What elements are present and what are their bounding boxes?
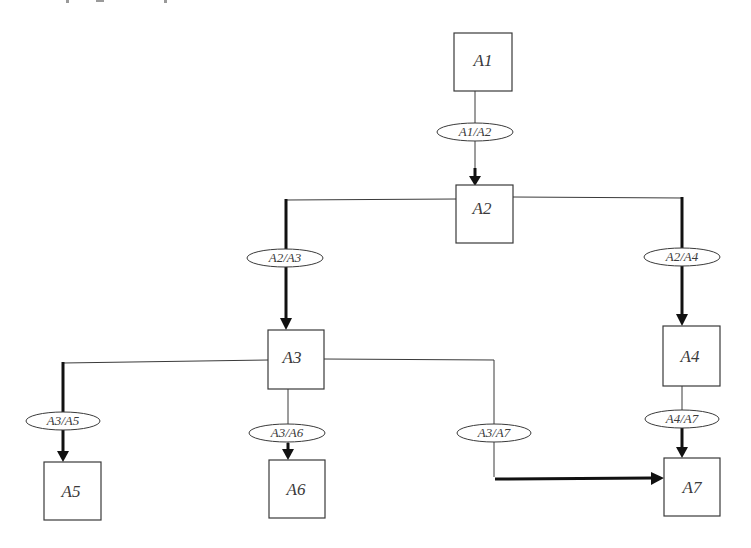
- svg-text:A3/A6: A3/A6: [270, 425, 304, 440]
- node-a4[interactable]: A4: [663, 326, 720, 386]
- edge-a3-a5: [57, 360, 268, 462]
- edge-label-a3-a5: A3/A5: [26, 412, 100, 430]
- node-label: A2: [472, 199, 492, 218]
- node-a2[interactable]: A2: [456, 185, 513, 243]
- edge-label-a3-a7: A3/A7: [457, 424, 531, 442]
- edge-label-a2-a3: A2/A3: [247, 249, 323, 267]
- node-label: A4: [680, 347, 700, 366]
- node-a1[interactable]: A1: [454, 33, 512, 91]
- edge-label-a4-a7: A4/A7: [645, 410, 719, 428]
- node-label: A1: [473, 51, 493, 70]
- edge-label-a2-a4: A2/A4: [644, 248, 720, 266]
- edge-label-a1-a2: A1/A2: [437, 123, 513, 141]
- svg-text:A4/A7: A4/A7: [665, 411, 699, 426]
- edge-a3-a7: [324, 359, 664, 485]
- edge-label-a3-a6: A3/A6: [249, 424, 325, 442]
- svg-text:A3/A7: A3/A7: [477, 425, 511, 440]
- node-label: A6: [286, 480, 306, 499]
- node-a6[interactable]: A6: [269, 460, 325, 518]
- svg-text:A2/A3: A2/A3: [268, 250, 302, 265]
- node-a5[interactable]: A5: [44, 462, 101, 520]
- clipped-caption-fragment: [66, 0, 167, 3]
- svg-text:A3/A5: A3/A5: [46, 413, 80, 428]
- node-label: A3: [282, 348, 302, 367]
- hierarchy-diagram: A1 A2 A3 A4 A5 A6 A7 A1/A2 A2/A3 A2/A4: [0, 0, 751, 548]
- node-a3[interactable]: A3: [268, 330, 324, 389]
- node-a7[interactable]: A7: [664, 458, 720, 516]
- node-label: A7: [682, 478, 703, 497]
- node-label: A5: [61, 482, 81, 501]
- svg-text:A1/A2: A1/A2: [458, 124, 492, 139]
- svg-text:A2/A4: A2/A4: [665, 249, 699, 264]
